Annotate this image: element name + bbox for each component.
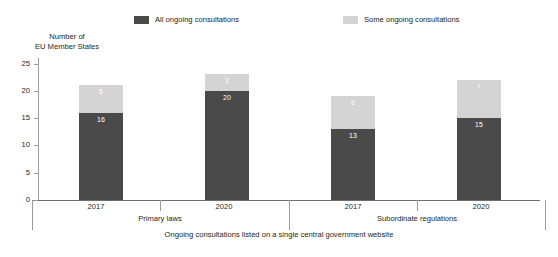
y-axis-title-line2: EU Member States (22, 42, 112, 52)
y-tick-15: 15 (34, 118, 38, 119)
y-tick-label-25: 25 (22, 59, 30, 68)
category-separator-1 (160, 200, 161, 211)
clipped-title-strip (0, 0, 558, 2)
bar-value-all-3: 15 (457, 121, 501, 129)
bar-value-all-0: 16 (79, 116, 123, 124)
group-label-subordinate-regulations: Subordinate regulations (317, 214, 517, 224)
bar-segment-all-0[interactable]: 16 (79, 113, 123, 200)
category-label-subordinate-2020: 2020 (421, 202, 541, 212)
bar-segment-some-1[interactable]: 3 (205, 74, 249, 90)
bar-segment-all-1[interactable]: 20 (205, 91, 249, 200)
y-tick-label-20: 20 (22, 86, 30, 95)
y-axis-line (38, 58, 39, 200)
legend-item-all-ongoing: All ongoing consultations (134, 15, 239, 24)
chart-figure: All ongoing consultations Some ongoing c… (0, 0, 558, 257)
category-separator-left (32, 200, 33, 230)
legend-label-some: Some ongoing consultations (364, 15, 459, 24)
y-tick-25: 25 (34, 64, 38, 65)
legend-swatch-icon-all (134, 16, 149, 24)
bar-value-some-1: 3 (205, 77, 249, 85)
y-tick-label-15: 15 (22, 113, 30, 122)
category-separator-3 (417, 200, 418, 211)
y-tick-10: 10 (34, 145, 38, 146)
bar-value-all-1: 20 (205, 94, 249, 102)
y-tick-label-5: 5 (26, 168, 30, 177)
bar-segment-some-3[interactable]: 7 (457, 80, 501, 118)
legend-label-all: All ongoing consultations (155, 15, 239, 24)
bar-value-some-2: 6 (331, 99, 375, 107)
bar-segment-some-0[interactable]: 5 (79, 85, 123, 112)
chart-legend: All ongoing consultations Some ongoing c… (0, 15, 558, 29)
legend-item-some-ongoing: Some ongoing consultations (343, 15, 459, 24)
category-label-primary-2020: 2020 (164, 202, 284, 212)
group-label-primary-laws: Primary laws (60, 214, 260, 224)
plot-area: 0 5 10 15 20 25 5 16 3 (38, 58, 540, 200)
category-separator-right (545, 200, 546, 230)
bar-value-some-3: 7 (457, 83, 501, 91)
legend-swatch-icon-some (343, 16, 358, 24)
bar-value-all-2: 13 (331, 132, 375, 140)
category-label-subordinate-2017: 2017 (293, 202, 413, 212)
bar-segment-all-2[interactable]: 13 (331, 129, 375, 200)
bar-value-some-0: 5 (79, 88, 123, 96)
category-axis: 2017 2020 2017 2020 Primary laws Subordi… (32, 200, 546, 230)
bar-segment-all-3[interactable]: 15 (457, 118, 501, 200)
y-axis-title-line1: Number of (22, 32, 112, 42)
y-tick-5: 5 (34, 173, 38, 174)
chart-caption: Ongoing consultations listed on a single… (0, 230, 558, 240)
y-tick-label-10: 10 (22, 140, 30, 149)
category-separator-center (289, 200, 290, 230)
bar-segment-some-2[interactable]: 6 (331, 96, 375, 129)
y-axis-title: Number of EU Member States (22, 32, 112, 51)
y-tick-label-0: 0 (26, 195, 30, 204)
y-tick-20: 20 (34, 91, 38, 92)
category-label-primary-2017: 2017 (36, 202, 156, 212)
